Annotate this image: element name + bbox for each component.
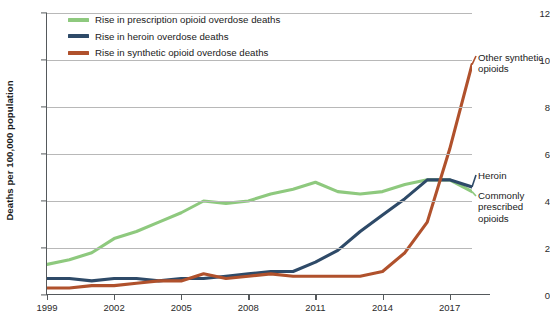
legend-item-label: Rise in prescription opioid overdose dea… <box>95 14 280 25</box>
annotation-other-synthetic-opioids: Other synthetic opioids <box>478 52 550 75</box>
gridline-y-2 <box>47 248 472 249</box>
x-tick-mark-2011 <box>315 294 316 300</box>
x-tick-label-2011: 2011 <box>295 302 335 313</box>
gridline-y-6 <box>47 154 472 155</box>
y-axis-title: Deaths per 100,000 population <box>2 0 16 300</box>
gridline-y-4 <box>47 201 472 202</box>
opioid-overdose-line-chart: Deaths per 100,000 population 024681012 … <box>0 0 550 322</box>
x-tick-label-2008: 2008 <box>228 302 268 313</box>
x-tick-label-2002: 2002 <box>94 302 134 313</box>
x-tick-label-2017: 2017 <box>430 302 470 313</box>
leader-line-2 <box>472 56 476 65</box>
x-tick-mark-2008 <box>248 294 249 300</box>
legend-item-2: Rise in synthetic opioid overdose deaths <box>68 47 280 58</box>
legend-swatch-icon-2 <box>68 51 89 55</box>
x-tick-mark-1999 <box>47 294 48 300</box>
y-tick-label-6: 6 <box>514 149 550 160</box>
x-tick-label-2005: 2005 <box>161 302 201 313</box>
y-tick-label-0: 0 <box>514 290 550 301</box>
legend-item-1: Rise in heroin overdose deaths <box>68 31 280 42</box>
leader-line-1 <box>472 175 476 187</box>
x-tick-mark-2014 <box>383 294 384 300</box>
legend-item-0: Rise in prescription opioid overdose dea… <box>68 14 280 25</box>
series-line-other-synthetic-opioids <box>47 65 472 288</box>
gridline-y-8 <box>47 107 472 108</box>
gridline-y-10 <box>47 60 472 61</box>
chart-legend: Rise in prescription opioid overdose dea… <box>68 14 280 58</box>
x-tick-label-1999: 1999 <box>27 302 67 313</box>
y-axis-line <box>46 13 47 295</box>
series-line-commonly-prescribed-opioids <box>47 180 472 265</box>
annotation-heroin: Heroin <box>478 170 550 181</box>
x-tick-mark-2017 <box>450 294 451 300</box>
y-tick-label-2: 2 <box>514 243 550 254</box>
x-tick-label-2014: 2014 <box>363 302 403 313</box>
y-axis-title-label: Deaths per 100,000 population <box>4 80 15 220</box>
series-line-heroin <box>47 180 472 281</box>
leader-line-0 <box>472 192 476 196</box>
x-tick-mark-2005 <box>181 294 182 300</box>
legend-item-label: Rise in synthetic opioid overdose deaths <box>95 47 268 58</box>
annotation-commonly-prescribed-opioids: Commonly prescribed opioids <box>478 190 550 224</box>
x-tick-mark-2002 <box>114 294 115 300</box>
legend-swatch-icon-0 <box>68 18 89 22</box>
y-tick-label-12: 12 <box>514 8 550 19</box>
legend-swatch-icon-1 <box>68 34 89 38</box>
y-tick-label-8: 8 <box>514 102 550 113</box>
legend-item-label: Rise in heroin overdose deaths <box>95 31 229 42</box>
